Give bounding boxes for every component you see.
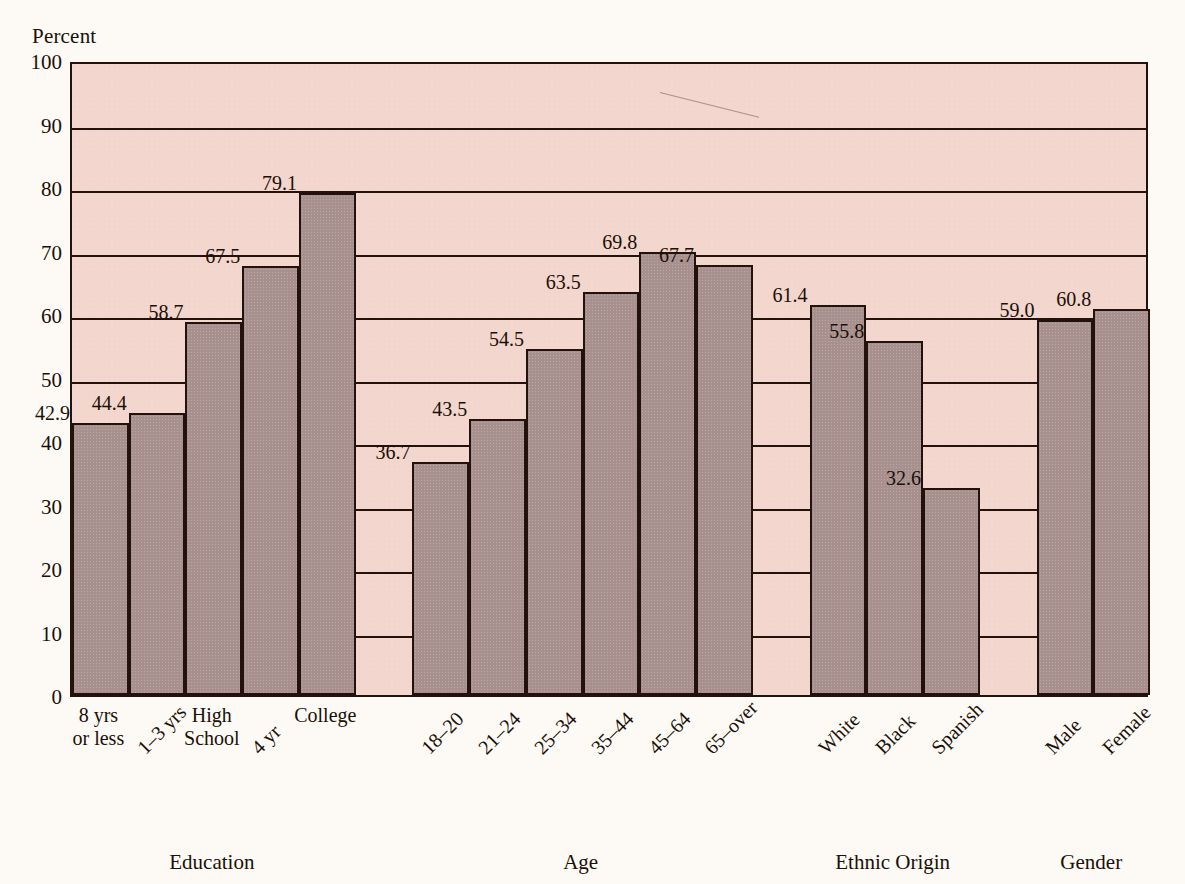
category-label: 21–24 [473, 707, 525, 759]
bar-value-label: 43.5 [432, 398, 471, 421]
y-tick-label-80: 80 [6, 177, 62, 202]
y-tick-label-70: 70 [6, 240, 62, 265]
bar-texture [585, 294, 638, 693]
y-axis-title: Percent [32, 24, 96, 49]
bar-texture [1039, 322, 1092, 693]
category-label: High School [184, 704, 240, 750]
group-label-education: Education [169, 850, 254, 875]
y-tick-label-50: 50 [6, 367, 62, 392]
category-label: 45–64 [643, 707, 695, 759]
y-tick-label-60: 60 [6, 304, 62, 329]
bar [1037, 320, 1094, 695]
bar [185, 322, 242, 695]
bar-value-label: 79.1 [262, 172, 301, 195]
category-label: Male [1041, 714, 1086, 759]
y-tick-label-20: 20 [6, 558, 62, 583]
y-tick-label-90: 90 [6, 113, 62, 138]
bar-texture [868, 343, 921, 693]
bar-value-label: 60.8 [1056, 288, 1095, 311]
bar-texture [414, 464, 467, 693]
bar-value-label: 69.8 [602, 231, 641, 254]
bar-texture [187, 324, 240, 693]
bar-texture [471, 421, 524, 693]
bar [72, 423, 129, 695]
group-label-gender: Gender [1060, 850, 1122, 875]
category-label: College [294, 704, 356, 727]
bar [810, 305, 867, 695]
category-label: 1–3 yrs [133, 701, 191, 759]
bar [866, 341, 923, 695]
group-label-age: Age [563, 850, 598, 875]
bar-value-label: 44.4 [92, 392, 131, 415]
bar-value-label: 67.7 [659, 244, 698, 267]
bars-container: 42.944.458.767.579.136.743.554.563.569.8… [72, 64, 1146, 695]
y-tick-label-30: 30 [6, 494, 62, 519]
y-axis-tick-labels: 1009080706050403020100 [0, 62, 62, 697]
bar-texture [698, 267, 751, 693]
bar-value-label: 54.5 [489, 328, 528, 351]
bar [696, 265, 753, 695]
bar-texture [812, 307, 865, 693]
bar-value-label: 61.4 [773, 284, 812, 307]
bar [1093, 309, 1150, 695]
category-label: Female [1097, 701, 1155, 759]
x-axis-labels: 8 yrs or less1–3 yrsHigh School4 yrColle… [70, 700, 1148, 884]
bar-texture [244, 268, 297, 693]
bar [923, 488, 980, 695]
group-label-ethnic-origin: Ethnic Origin [835, 850, 950, 875]
category-label: 18–20 [417, 707, 469, 759]
bar [469, 419, 526, 695]
bar-value-label: 36.7 [375, 441, 414, 464]
bar [583, 292, 640, 695]
bar [412, 462, 469, 695]
bar-texture [1095, 311, 1148, 693]
category-label: 8 yrs or less [73, 704, 125, 750]
bar-texture [925, 490, 978, 693]
category-label: Black [870, 710, 919, 759]
y-tick-label-100: 100 [6, 50, 62, 75]
bar-texture [131, 415, 184, 693]
y-tick-label-40: 40 [6, 431, 62, 456]
category-label: 25–34 [530, 707, 582, 759]
bar-value-label: 55.8 [829, 320, 868, 343]
bar [526, 349, 583, 695]
bar [242, 266, 299, 695]
category-label: 65–over [700, 696, 763, 759]
bar-value-label: 67.5 [205, 245, 244, 268]
y-tick-label-0: 0 [6, 685, 62, 710]
y-tick-label-10: 10 [6, 621, 62, 646]
bar-value-label: 42.9 [35, 402, 74, 425]
bar [639, 252, 696, 695]
bar-value-label: 58.7 [148, 301, 187, 324]
category-label: White [814, 708, 865, 759]
bar-value-label: 59.0 [1000, 299, 1039, 322]
category-label: 4 yr [246, 720, 285, 759]
bar-texture [641, 254, 694, 693]
bar-texture [301, 195, 354, 693]
bar [299, 193, 356, 695]
bar-chart-figure: Percent 1009080706050403020100 42.944.45… [0, 0, 1185, 884]
bar-texture [528, 351, 581, 693]
plot-area: 42.944.458.767.579.136.743.554.563.569.8… [70, 62, 1148, 697]
bar [129, 413, 186, 695]
bar-value-label: 63.5 [546, 271, 585, 294]
category-label: Spanish [927, 698, 988, 759]
category-label: 35–44 [587, 707, 639, 759]
bar-value-label: 32.6 [886, 467, 925, 490]
bar-texture [74, 425, 127, 693]
